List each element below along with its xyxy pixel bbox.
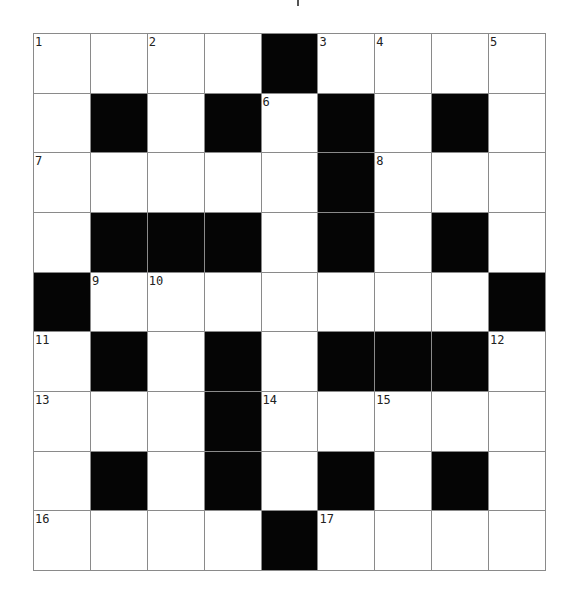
clue-number: 3 <box>319 36 326 48</box>
crossword-cell[interactable] <box>205 511 261 570</box>
crossword-cell[interactable] <box>432 511 488 570</box>
crossword-cell[interactable] <box>489 511 545 570</box>
crossword-cell[interactable] <box>148 452 204 511</box>
black-square <box>205 213 261 272</box>
black-square <box>262 34 318 93</box>
crossword-cell[interactable] <box>148 511 204 570</box>
black-square <box>489 273 545 332</box>
crossword-cell[interactable] <box>34 94 90 153</box>
clue-number: 16 <box>35 513 49 525</box>
crossword-cell[interactable] <box>318 273 374 332</box>
crossword-cell[interactable] <box>375 511 431 570</box>
black-square <box>205 392 261 451</box>
black-square <box>318 94 374 153</box>
crossword-cell[interactable]: 2 <box>148 34 204 93</box>
clue-number: 9 <box>92 275 99 287</box>
black-square <box>148 213 204 272</box>
black-square <box>432 452 488 511</box>
black-square <box>91 332 147 391</box>
black-square <box>318 213 374 272</box>
crossword-cell[interactable] <box>205 273 261 332</box>
clue-number: 1 <box>35 36 42 48</box>
black-square <box>318 153 374 212</box>
crossword-cell[interactable]: 16 <box>34 511 90 570</box>
crossword-cell[interactable] <box>148 153 204 212</box>
crossword-cell[interactable] <box>432 34 488 93</box>
crossword-cell[interactable] <box>375 273 431 332</box>
crossword-cell[interactable] <box>375 94 431 153</box>
crossword-cell[interactable]: 10 <box>148 273 204 332</box>
crossword-cell[interactable]: 6 <box>262 94 318 153</box>
black-square <box>91 452 147 511</box>
crossword-cell[interactable]: 5 <box>489 34 545 93</box>
clue-number: 17 <box>319 513 333 525</box>
crossword-cell[interactable]: 15 <box>375 392 431 451</box>
black-square <box>375 332 431 391</box>
crossword-cell[interactable] <box>91 153 147 212</box>
black-square <box>91 213 147 272</box>
clue-number: 2 <box>149 36 156 48</box>
clue-number: 13 <box>35 394 49 406</box>
crossword-cell[interactable]: 9 <box>91 273 147 332</box>
crossword-cell[interactable] <box>34 452 90 511</box>
crossword-cell[interactable] <box>91 34 147 93</box>
crossword-cell[interactable] <box>148 392 204 451</box>
crossword-cell[interactable] <box>489 452 545 511</box>
crossword-cell[interactable] <box>262 273 318 332</box>
crossword-cell[interactable] <box>148 332 204 391</box>
clue-number: 14 <box>263 394 277 406</box>
black-square <box>432 332 488 391</box>
clue-number: 5 <box>490 36 497 48</box>
crossword-cell[interactable]: 3 <box>318 34 374 93</box>
crossword-cell[interactable]: 4 <box>375 34 431 93</box>
crossword-cell[interactable] <box>262 332 318 391</box>
crossword-cell[interactable] <box>148 94 204 153</box>
black-square <box>205 452 261 511</box>
clue-number: 7 <box>35 155 42 167</box>
crossword-cell[interactable] <box>318 392 374 451</box>
crossword-cell[interactable]: 12 <box>489 332 545 391</box>
crossword-cell[interactable]: 1 <box>34 34 90 93</box>
crossword-cell[interactable]: 13 <box>34 392 90 451</box>
crossword-cell[interactable] <box>432 153 488 212</box>
black-square <box>205 332 261 391</box>
clue-number: 15 <box>376 394 390 406</box>
crossword-cell[interactable] <box>205 34 261 93</box>
crossword-cell[interactable] <box>262 153 318 212</box>
crossword-cell[interactable] <box>262 213 318 272</box>
crossword-cell[interactable]: 14 <box>262 392 318 451</box>
crossword-cell[interactable] <box>489 392 545 451</box>
crossword-cell[interactable]: 8 <box>375 153 431 212</box>
top-mark <box>297 0 299 6</box>
crossword-cell[interactable]: 17 <box>318 511 374 570</box>
crossword-cell[interactable] <box>34 213 90 272</box>
crossword-grid: 1234567891011121314151617 <box>33 33 546 571</box>
clue-number: 11 <box>35 334 49 346</box>
black-square <box>262 511 318 570</box>
black-square <box>34 273 90 332</box>
crossword-cell[interactable] <box>262 452 318 511</box>
clue-number: 4 <box>376 36 383 48</box>
crossword-cell[interactable] <box>205 153 261 212</box>
crossword-cell[interactable] <box>375 213 431 272</box>
black-square <box>318 452 374 511</box>
crossword-cell[interactable]: 7 <box>34 153 90 212</box>
black-square <box>432 94 488 153</box>
black-square <box>91 94 147 153</box>
crossword-cell[interactable]: 11 <box>34 332 90 391</box>
crossword-cell[interactable] <box>489 94 545 153</box>
crossword-cell[interactable] <box>432 273 488 332</box>
clue-number: 10 <box>149 275 163 287</box>
black-square <box>432 213 488 272</box>
black-square <box>318 332 374 391</box>
crossword-cell[interactable] <box>91 392 147 451</box>
clue-number: 12 <box>490 334 504 346</box>
crossword-cell[interactable] <box>375 452 431 511</box>
crossword-cell[interactable] <box>91 511 147 570</box>
crossword-cell[interactable] <box>489 153 545 212</box>
clue-number: 6 <box>263 96 270 108</box>
crossword-cell[interactable] <box>432 392 488 451</box>
black-square <box>205 94 261 153</box>
crossword-cell[interactable] <box>489 213 545 272</box>
clue-number: 8 <box>376 155 383 167</box>
